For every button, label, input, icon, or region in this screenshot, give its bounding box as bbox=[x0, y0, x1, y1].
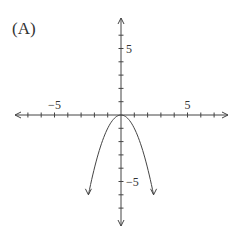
curve-left-arrow bbox=[85, 189, 91, 195]
x-tick-label: −5 bbox=[48, 98, 61, 112]
graph: −555−5 bbox=[0, 0, 242, 239]
curve-right-arrow bbox=[151, 189, 157, 195]
x-tick-label: 5 bbox=[185, 98, 191, 112]
y-tick-label: −5 bbox=[126, 175, 139, 189]
y-tick-label: 5 bbox=[126, 42, 132, 56]
